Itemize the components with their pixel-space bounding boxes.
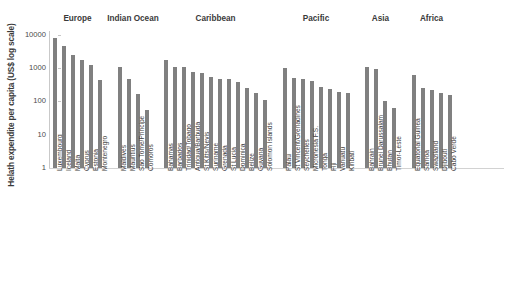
bar-series: LuxembourgIcelandMaltaCyprusEstoniaMonte… [0,0,507,292]
category-label: Timor-Leste [396,136,403,171]
bar [283,68,287,168]
category-label: Kiribati [349,151,356,171]
category-label: Comoros [148,144,155,171]
category-label: Cabo Verde [451,136,458,171]
chart-figure: Helath expendite per capita (US$ log sca… [0,0,507,292]
bar [71,55,75,168]
bar [328,89,332,168]
category-label: Montenegro [102,136,109,171]
category-label: Solomon Islands [267,122,274,171]
figure-caption [4,284,304,292]
